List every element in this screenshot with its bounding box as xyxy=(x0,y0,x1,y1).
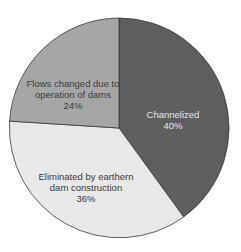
label-text: Eliminated by earthern xyxy=(38,171,133,182)
label-percent: 40% xyxy=(147,120,200,131)
slice-flows-changed xyxy=(10,18,119,128)
label-channelized: Channelized 40% xyxy=(147,109,200,131)
label-flows-changed: Flows changed due to operation of dams 2… xyxy=(27,78,120,111)
label-text: operation of dams xyxy=(27,89,120,100)
label-eliminated: Eliminated by earthern dam construction … xyxy=(38,171,133,204)
label-text: Channelized xyxy=(147,109,200,120)
label-percent: 36% xyxy=(38,193,133,204)
label-text: Flows changed due to xyxy=(27,78,120,89)
label-text: dam construction xyxy=(38,182,133,193)
pie-chart xyxy=(0,0,241,252)
label-percent: 24% xyxy=(27,100,120,111)
